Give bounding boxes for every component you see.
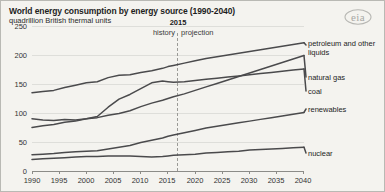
series-line-coal [32,69,304,121]
series-lines [1,1,385,192]
leader-line-renewables [304,109,306,112]
series-line-renewables [32,112,304,154]
series-line-petroleum-and-other-liquids [32,43,304,93]
series-label-petroleum: petroleum and other liquids [308,39,384,57]
series-label-natural-gas: natural gas [308,73,384,82]
series-label-nuclear: nuclear [308,149,384,158]
series-label-coal: coal [308,87,384,96]
series-label-renewables: renewables [308,105,384,114]
leader-line-nuclear [304,147,306,153]
series-line-nuclear [32,147,304,159]
leader-line-petroleum [304,43,306,45]
chart-card: World energy consumption by energy sourc… [0,0,385,192]
